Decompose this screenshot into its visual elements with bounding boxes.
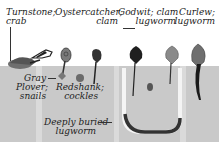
leader-line — [10, 27, 11, 61]
oystercatcher-label: Oystercatcher; clam — [55, 8, 118, 26]
leader-line — [123, 28, 135, 29]
shorebird-feeding-diagram: Turnstone; crab Oystercatcher; clam Godw… — [0, 0, 219, 146]
curlew-bird-icon — [166, 46, 179, 84]
cockle-prey-icon — [76, 74, 84, 82]
gray-plover-bird-icon — [32, 50, 52, 58]
leader-line — [48, 78, 56, 79]
leader-line — [98, 122, 112, 123]
oystercatcher-bird-icon — [58, 48, 71, 80]
lugworm-burrow-icon — [124, 68, 180, 132]
redshank-label: Redshank; cockles — [56, 83, 98, 101]
godwit-label: Godwit; clam lugworm — [118, 8, 176, 26]
lugworm-label: Deeply buried lugworm — [44, 118, 96, 136]
godwit-bird-icon — [130, 46, 153, 96]
turnstone-bird-icon — [8, 57, 40, 69]
gray-plover-label: Gray Plover; snails — [16, 74, 46, 101]
curlew-2-bird-icon — [192, 44, 206, 100]
redshank-bird-icon — [76, 49, 101, 84]
curlew-label: Curlew; lugworm — [172, 8, 215, 26]
turnstone-label: Turnstone; crab — [6, 8, 56, 26]
clam-prey-icon — [147, 83, 153, 91]
clam-prey-icon — [58, 72, 66, 80]
